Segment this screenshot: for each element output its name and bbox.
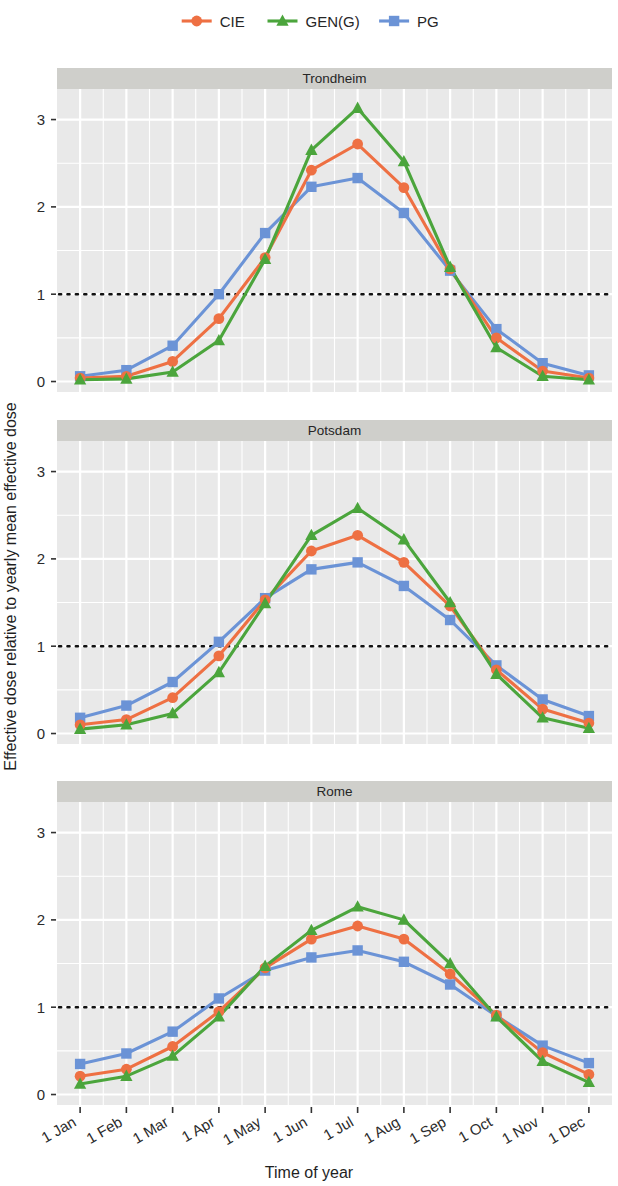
y-tick-label: 0	[37, 373, 45, 390]
x-tick-label: 1 Jun	[270, 1113, 310, 1146]
data-point-pg	[399, 208, 409, 218]
data-point-pg	[352, 173, 362, 183]
chart-legend: CIEGEN(G)PG	[182, 13, 439, 30]
x-tick-label: 1 Dec	[545, 1113, 588, 1148]
legend-label-PG: PG	[417, 13, 439, 30]
legend-label-CIE: CIE	[220, 13, 245, 30]
data-point-cie	[445, 969, 456, 980]
x-tick-label: 1 May	[220, 1113, 264, 1148]
data-point-pg	[167, 677, 177, 687]
y-tick-label: 3	[37, 463, 45, 480]
data-point-cie	[352, 139, 363, 150]
data-point-cie	[398, 182, 409, 193]
data-point-pg	[260, 228, 270, 238]
data-point-pg	[584, 1058, 594, 1068]
x-tick-label: 1 Jul	[320, 1113, 356, 1144]
x-tick-label: 1 Nov	[499, 1113, 542, 1148]
data-point-cie	[352, 921, 363, 932]
data-point-pg	[352, 557, 362, 567]
data-point-pg	[214, 993, 224, 1003]
x-tick-label: 1 Oct	[455, 1112, 495, 1145]
faceted-line-chart: CIEGEN(G)PGTrondheim0123Potsdam0123Rome0…	[0, 0, 618, 1186]
data-point-pg	[214, 637, 224, 647]
y-tick-label: 3	[37, 824, 45, 841]
panel-strip-label-rome: Rome	[316, 784, 352, 799]
panel-trondheim: Trondheim0123	[37, 68, 612, 392]
data-point-cie	[167, 356, 178, 367]
data-point-cie	[167, 692, 178, 703]
y-tick-label: 0	[37, 1086, 45, 1103]
data-point-pg	[121, 1048, 131, 1058]
y-tick-label: 0	[37, 725, 45, 742]
data-point-pg	[75, 1059, 85, 1069]
data-point-cie	[306, 934, 317, 945]
x-tick-label: 1 Apr	[179, 1113, 218, 1145]
legend-label-GEN(G): GEN(G)	[306, 13, 360, 30]
data-point-pg	[306, 952, 316, 962]
data-point-pg	[167, 1026, 177, 1036]
x-axis: 1 Jan1 Feb1 Mar1 Apr1 May1 Jun1 Jul1 Aug…	[38, 1107, 589, 1148]
y-tick-label: 2	[37, 550, 45, 567]
panel-potsdam: Potsdam0123	[37, 420, 612, 744]
data-point-cie	[213, 650, 224, 661]
legend-key-marker	[191, 16, 202, 27]
data-point-pg	[214, 289, 224, 299]
data-point-cie	[306, 546, 317, 557]
data-point-cie	[398, 934, 409, 945]
x-tick-label: 1 Sep	[406, 1113, 448, 1147]
figure-container: CIEGEN(G)PGTrondheim0123Potsdam0123Rome0…	[0, 0, 618, 1186]
data-point-pg	[121, 700, 131, 710]
x-tick-label: 1 Feb	[83, 1113, 125, 1147]
legend-key-marker	[389, 16, 399, 26]
data-point-pg	[167, 341, 177, 351]
x-tick-label: 1 Mar	[129, 1113, 171, 1147]
x-axis-title: Time of year	[265, 1164, 354, 1181]
data-point-pg	[306, 182, 316, 192]
legend-item-pg[interactable]: PG	[379, 13, 439, 30]
data-point-cie	[398, 557, 409, 568]
data-point-cie	[306, 165, 317, 176]
y-tick-label: 1	[37, 638, 45, 655]
legend-item-cie[interactable]: CIE	[182, 13, 245, 30]
data-point-pg	[445, 979, 455, 989]
data-point-pg	[306, 564, 316, 574]
data-point-pg	[445, 615, 455, 625]
x-tick-label: 1 Jan	[38, 1113, 78, 1146]
x-tick-label: 1 Aug	[361, 1113, 403, 1147]
y-tick-label: 1	[37, 999, 45, 1016]
panel-strip-label-trondheim: Trondheim	[302, 71, 366, 86]
data-point-cie	[213, 313, 224, 324]
data-point-pg	[537, 694, 547, 704]
y-tick-label: 1	[37, 286, 45, 303]
data-point-pg	[399, 581, 409, 591]
y-tick-label: 2	[37, 911, 45, 928]
panel-strip-label-potsdam: Potsdam	[308, 423, 361, 438]
data-point-pg	[399, 957, 409, 967]
y-tick-label: 2	[37, 198, 45, 215]
legend-item-geng[interactable]: GEN(G)	[268, 13, 360, 30]
data-point-pg	[352, 945, 362, 955]
y-tick-label: 3	[37, 111, 45, 128]
y-axis-title: Effective dose relative to yearly mean e…	[2, 402, 19, 771]
panel-rome: Rome0123	[37, 781, 612, 1105]
data-point-cie	[352, 530, 363, 541]
